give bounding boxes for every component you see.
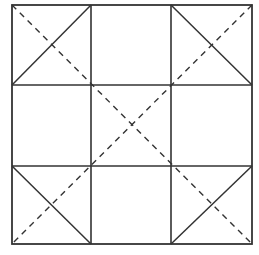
square-grid-diagram: [0, 0, 259, 255]
dashed-diagonals: [12, 5, 252, 244]
